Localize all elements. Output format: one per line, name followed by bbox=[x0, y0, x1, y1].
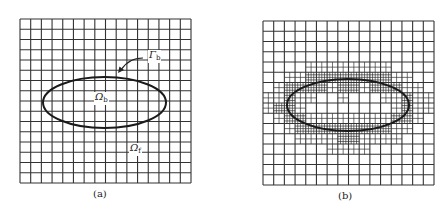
label-gamma-b: Γb bbox=[148, 50, 161, 63]
figure-canvas bbox=[0, 0, 446, 216]
caption-a: (a) bbox=[93, 188, 107, 199]
label-omega-b: Ωb bbox=[94, 92, 109, 105]
label-omega-f: Ωf bbox=[129, 143, 142, 156]
caption-b: (b) bbox=[338, 190, 352, 201]
